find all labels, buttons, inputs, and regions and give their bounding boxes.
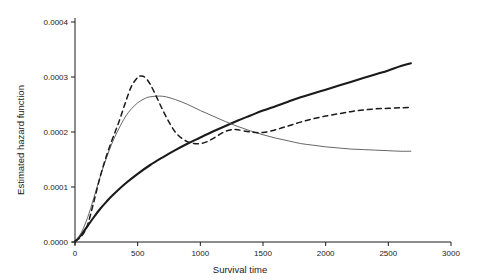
chart-plot-area: 0.00000.00010.00020.00030.0004 050010001…: [0, 0, 478, 280]
x-tick-label: 2500: [379, 249, 397, 258]
y-tick-label: 0.0004: [44, 18, 69, 27]
y-tick-label: 0.0001: [44, 183, 69, 192]
x-tick-label: 500: [131, 249, 145, 258]
y-tick-label: 0.0000: [44, 238, 69, 247]
x-tick-label: 1500: [254, 249, 272, 258]
data-series-group: [75, 63, 411, 242]
x-axis-ticks: 050010001500200025003000: [73, 242, 461, 258]
series-line-dashed-hazard: [75, 76, 411, 241]
y-tick-label: 0.0002: [44, 128, 69, 137]
x-tick-label: 1000: [191, 249, 209, 258]
x-axis-title: Survival time: [213, 264, 267, 275]
axis-lines: [72, 18, 451, 245]
x-tick-label: 0: [73, 249, 78, 258]
x-tick-label: 2000: [317, 249, 335, 258]
y-tick-label: 0.0003: [44, 73, 69, 82]
hazard-function-chart: 0.00000.00010.00020.00030.0004 050010001…: [0, 0, 478, 280]
y-axis-ticks: 0.00000.00010.00020.00030.0004: [44, 18, 75, 247]
series-line-smooth-increasing-hazard: [75, 63, 411, 242]
x-tick-label: 3000: [442, 249, 460, 258]
y-axis-title: Estimated hazard function: [15, 85, 26, 195]
